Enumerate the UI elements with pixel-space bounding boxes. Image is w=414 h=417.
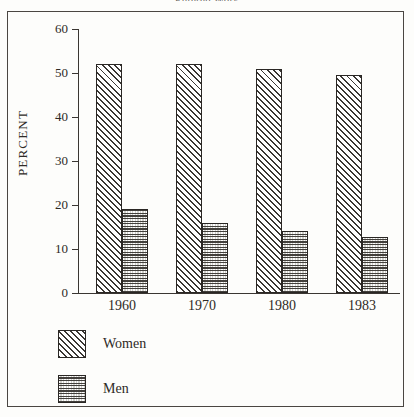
y-axis-tick	[72, 73, 78, 74]
plot-area	[78, 29, 400, 293]
x-axis-label-1960: 1960	[82, 298, 162, 314]
y-axis-tick-label: 10	[28, 241, 68, 257]
bar-group-1960	[96, 64, 148, 293]
y-axis-tick	[72, 249, 78, 250]
x-axis-label-1980: 1980	[242, 298, 322, 314]
bar-group-1983	[336, 75, 388, 293]
bar-group-1970	[176, 64, 228, 293]
bar-group-1980	[256, 69, 308, 293]
legend-label-women: Women	[103, 336, 146, 352]
y-axis-tick	[72, 161, 78, 162]
bar-men-1983	[362, 237, 388, 293]
y-axis-tick-label: 20	[28, 197, 68, 213]
y-axis-tick	[72, 29, 78, 30]
y-axis-title: PERCENT	[15, 83, 31, 203]
x-axis-label-1983: 1983	[322, 298, 402, 314]
bar-women-1960	[96, 64, 122, 293]
legend-item-women: Women	[58, 327, 146, 361]
y-axis-tick-label: 0	[28, 285, 68, 301]
legend-item-men: Men	[58, 372, 146, 406]
bar-women-1983	[336, 75, 362, 293]
y-axis-tick-label: 60	[28, 21, 68, 37]
bar-women-1980	[256, 69, 282, 293]
y-axis-tick-label: 30	[28, 153, 68, 169]
dotted-stipple-swatch-icon	[58, 375, 86, 403]
bar-men-1960	[122, 209, 148, 293]
y-axis-tick	[72, 205, 78, 206]
figure-canvas: Entered Work 0102030405060 PERCENT Women…	[0, 0, 414, 417]
bar-men-1970	[202, 223, 228, 293]
bar-men-1980	[282, 231, 308, 293]
y-axis-tick	[72, 293, 78, 294]
bar-women-1970	[176, 64, 202, 293]
diagonal-hatch-swatch-icon	[58, 330, 86, 358]
y-axis-tick-label: 40	[28, 109, 68, 125]
y-axis-tick	[72, 117, 78, 118]
y-axis-tick-label: 50	[28, 65, 68, 81]
chart-legend: Women Men	[58, 327, 146, 417]
legend-label-men: Men	[103, 381, 129, 397]
x-axis-label-1970: 1970	[162, 298, 242, 314]
